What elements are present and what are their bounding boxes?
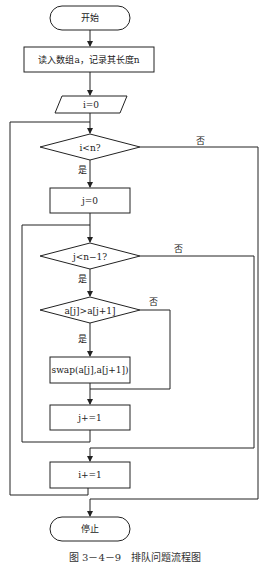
- cond-j-label: j<n−1?: [73, 253, 107, 262]
- init-j-label: j=0: [82, 197, 98, 206]
- inc-i-label: i+=1: [78, 471, 102, 480]
- cond-compare-yes-label: 是: [78, 335, 87, 344]
- figure-caption: 图 3－4－9 排队问题流程图: [69, 553, 201, 563]
- inc-j-label: j+=1: [78, 414, 102, 423]
- init-i-label: i=0: [83, 101, 99, 110]
- cond-j-yes-label: 是: [78, 275, 87, 284]
- stop-label: 停止: [81, 525, 99, 534]
- read-input-label: 读入数组a，记录其长度n: [38, 56, 139, 65]
- cond-compare-no-label: 否: [149, 298, 158, 307]
- cond-compare-label: a[j]>a[j+1]: [64, 307, 115, 316]
- start-label: 开始: [81, 14, 99, 23]
- cond-i-label: i<n?: [79, 144, 100, 153]
- swap-label: swap(a[j],a[j+1]): [52, 366, 129, 375]
- cond-i-yes-label: 是: [78, 166, 87, 175]
- cond-j-no-label: 否: [174, 245, 183, 254]
- cond-i-no-label: 否: [196, 137, 205, 146]
